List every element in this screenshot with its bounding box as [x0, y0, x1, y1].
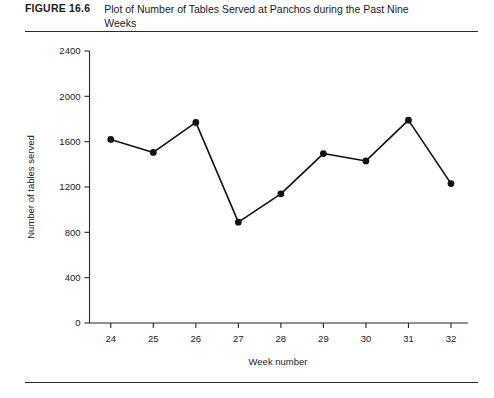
x-tick-label: 28: [276, 333, 287, 344]
data-series-markers: [107, 117, 454, 226]
y-tick-label: 2000: [59, 91, 80, 102]
chart-svg: 04008001200160020002400 2425262728293031…: [0, 0, 494, 398]
x-axis-title: Week number: [249, 356, 308, 367]
y-tick-label: 1200: [59, 181, 80, 192]
y-tick-label: 0: [75, 317, 80, 328]
data-point: [363, 158, 370, 165]
line-chart: 04008001200160020002400 2425262728293031…: [0, 0, 494, 398]
x-axis-tick-labels: 242526272829303132: [105, 333, 456, 344]
data-series-line: [111, 120, 451, 222]
data-point: [277, 190, 284, 197]
y-tick-label: 2400: [59, 45, 80, 56]
x-tick-label: 31: [403, 333, 414, 344]
data-point: [150, 149, 157, 156]
x-axis-ticks: [111, 323, 451, 328]
x-tick-label: 26: [191, 333, 202, 344]
data-point: [448, 180, 455, 187]
x-tick-label: 27: [233, 333, 244, 344]
y-axis-title: Number of tables served: [25, 135, 36, 239]
data-point: [107, 136, 114, 143]
y-axis-ticks: [85, 51, 90, 323]
data-point: [235, 219, 242, 226]
x-tick-label: 29: [318, 333, 329, 344]
y-axis-tick-labels: 04008001200160020002400: [59, 45, 80, 328]
data-point: [192, 119, 199, 126]
x-tick-label: 32: [446, 333, 457, 344]
y-tick-label: 400: [65, 272, 81, 283]
x-tick-label: 25: [148, 333, 159, 344]
x-tick-label: 24: [105, 333, 116, 344]
y-tick-label: 800: [65, 227, 81, 238]
data-point: [320, 150, 327, 157]
data-point: [405, 117, 412, 124]
y-tick-label: 1600: [59, 136, 80, 147]
x-tick-label: 30: [361, 333, 372, 344]
